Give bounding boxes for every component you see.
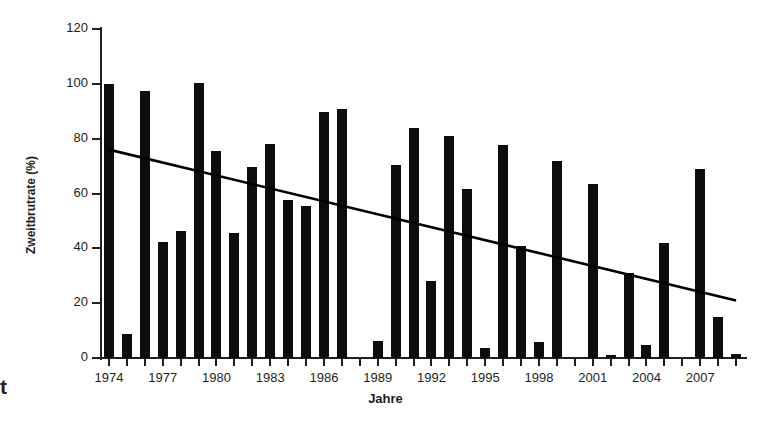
y-axis-tick-labels: 020406080100120 — [42, 0, 88, 439]
x-tick — [520, 359, 522, 366]
y-tick-label: 80 — [48, 131, 88, 144]
x-tick-label: 1995 — [471, 370, 500, 385]
x-tick-label: 1980 — [202, 370, 231, 385]
x-tick — [359, 359, 361, 366]
x-tick-label: 1986 — [309, 370, 338, 385]
x-tick — [323, 359, 325, 366]
x-tick-label: 1983 — [256, 370, 285, 385]
x-tick — [377, 359, 379, 366]
x-tick-label: 1974 — [94, 370, 123, 385]
y-tick-label: 0 — [48, 350, 88, 363]
x-tick-label: 2001 — [578, 370, 607, 385]
x-tick — [162, 359, 164, 366]
x-tick — [430, 359, 432, 366]
x-tick-label: 1977 — [148, 370, 177, 385]
x-tick — [717, 359, 719, 366]
x-tick — [466, 359, 468, 366]
x-tick — [448, 359, 450, 366]
x-axis-title: Jahre — [0, 391, 771, 406]
x-tick — [574, 359, 576, 366]
x-tick — [502, 359, 504, 366]
x-tick — [556, 359, 558, 366]
x-tick-label: 1998 — [524, 370, 553, 385]
x-tick — [198, 359, 200, 366]
x-tick — [413, 359, 415, 366]
x-tick — [538, 359, 540, 366]
x-tick — [341, 359, 343, 366]
x-tick — [305, 359, 307, 366]
x-tick — [395, 359, 397, 366]
x-tick — [699, 359, 701, 366]
x-tick — [628, 359, 630, 366]
x-tick — [215, 359, 217, 366]
y-axis-title: Zweitbrutrate (%) — [24, 140, 38, 270]
y-tick-label: 60 — [48, 186, 88, 199]
x-tick — [287, 359, 289, 366]
y-tick-label: 120 — [48, 21, 88, 34]
x-tick — [663, 359, 665, 366]
x-tick — [108, 359, 110, 366]
x-tick — [592, 359, 594, 366]
x-tick — [144, 359, 146, 366]
x-tick — [180, 359, 182, 366]
x-tick — [484, 359, 486, 366]
y-tick-label: 100 — [48, 76, 88, 89]
x-tick-label: 1992 — [417, 370, 446, 385]
y-tick-label: 20 — [48, 295, 88, 308]
x-tick — [645, 359, 647, 366]
trendline-segment — [109, 150, 736, 301]
x-tick — [735, 359, 737, 366]
x-tick — [233, 359, 235, 366]
x-tick — [610, 359, 612, 366]
y-tick-label: 40 — [48, 240, 88, 253]
trendline — [100, 29, 745, 358]
x-tick — [269, 359, 271, 366]
x-tick-label: 2007 — [686, 370, 715, 385]
x-tick — [251, 359, 253, 366]
x-tick — [681, 359, 683, 366]
x-tick-label: 1989 — [363, 370, 392, 385]
x-tick-label: 2004 — [632, 370, 661, 385]
x-tick — [126, 359, 128, 366]
